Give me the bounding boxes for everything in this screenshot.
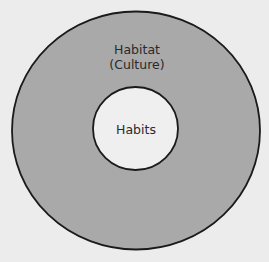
outer-circle-label: Habitat (Culture) (109, 42, 164, 72)
outer-circle-title: Habitat (109, 42, 164, 57)
inner-circle-label: Habits (116, 122, 156, 137)
outer-circle-subtitle: (Culture) (109, 57, 164, 72)
inner-circle-title: Habits (116, 122, 156, 137)
